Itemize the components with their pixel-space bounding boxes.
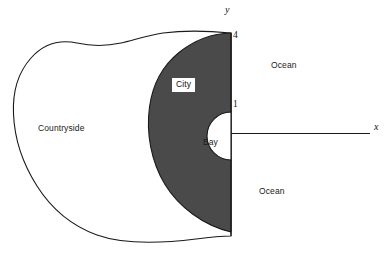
region-label-city: City xyxy=(172,78,195,92)
y-tick-label-1: 1 xyxy=(233,100,238,110)
y-axis-label: y xyxy=(225,5,230,15)
region-label-countryside: Countryside xyxy=(38,124,84,133)
region-label-bay: Bay xyxy=(203,138,218,147)
region-label-ocean-upper: Ocean xyxy=(271,61,297,70)
region-label-ocean-lower: Ocean xyxy=(259,187,285,196)
x-axis-label: x xyxy=(374,122,379,132)
figure-canvas: y x 4 1 Countryside City Bay Ocean Ocean xyxy=(0,0,389,256)
y-tick-label-4: 4 xyxy=(233,31,238,41)
